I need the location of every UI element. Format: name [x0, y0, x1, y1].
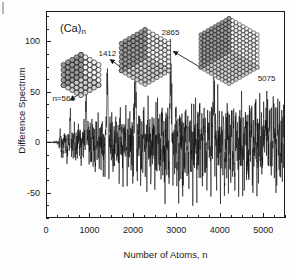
- y-tick-minor: [46, 67, 49, 68]
- y-tick-minor: [46, 54, 49, 55]
- y-axis-title: Difference Spectrum: [16, 46, 27, 176]
- x-tick-label: 4000: [210, 225, 230, 235]
- x-tick-major: [133, 213, 134, 218]
- x-axis-title: Number of Atoms, n: [46, 249, 285, 260]
- cluster-medium: [114, 26, 176, 88]
- y-tick-major: [46, 193, 51, 194]
- y-tick-minor: [46, 79, 49, 80]
- y-tick-minor: [46, 218, 49, 219]
- series-label: (Ca)n: [60, 22, 86, 36]
- cluster-large: [192, 14, 266, 88]
- x-tick-minor: [252, 215, 253, 218]
- x-tick-label: 1000: [79, 225, 99, 235]
- x-tick-minor: [166, 215, 167, 218]
- x-tick-minor: [100, 215, 101, 218]
- x-tick-label: 3000: [166, 225, 186, 235]
- y-tick-minor: [46, 168, 49, 169]
- x-tick-label: 0: [43, 225, 48, 235]
- y-tick-minor: [46, 104, 49, 105]
- x-tick-label: 5000: [253, 225, 273, 235]
- y-tick-minor: [46, 29, 49, 30]
- x-tick-minor: [274, 215, 275, 218]
- series-label-subscript: n: [81, 27, 85, 36]
- y-tick-minor: [46, 155, 49, 156]
- x-tick-minor: [111, 215, 112, 218]
- x-tick-major: [89, 213, 90, 218]
- cluster-small: [58, 52, 104, 98]
- series-label-text: (Ca): [60, 22, 81, 34]
- x-tick-minor: [68, 215, 69, 218]
- x-tick-major: [263, 213, 264, 218]
- x-tick-minor: [198, 215, 199, 218]
- x-tick-minor: [242, 215, 243, 218]
- y-tick-major: [46, 142, 51, 143]
- x-tick-minor: [231, 215, 232, 218]
- x-tick-minor: [285, 215, 286, 218]
- y-tick-label: -50: [8, 188, 40, 198]
- y-tick-major: [46, 92, 51, 93]
- x-tick-minor: [57, 215, 58, 218]
- x-tick-major: [176, 213, 177, 218]
- x-tick-minor: [209, 215, 210, 218]
- x-tick-minor: [79, 215, 80, 218]
- y-tick-minor: [46, 205, 49, 206]
- y-tick-minor: [46, 130, 49, 131]
- y-tick-minor: [46, 117, 49, 118]
- x-tick-label: 2000: [123, 225, 143, 235]
- y-tick-minor: [46, 16, 49, 17]
- x-tick-minor: [144, 215, 145, 218]
- x-tick-minor: [187, 215, 188, 218]
- figure-container: 010002000300040005000 -50050100 (Ca)n n=…: [0, 0, 295, 274]
- x-tick-minor: [122, 215, 123, 218]
- x-tick-major: [220, 213, 221, 218]
- x-tick-minor: [155, 215, 156, 218]
- y-tick-major: [46, 41, 51, 42]
- y-tick-minor: [46, 180, 49, 181]
